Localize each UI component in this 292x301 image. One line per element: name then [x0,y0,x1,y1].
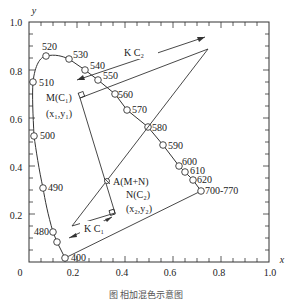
spectral-locus [33,55,201,258]
wl-700-770: 700-770 [205,185,238,196]
wl-510: 510 [39,77,54,88]
x-tick-0: 0 [18,267,23,278]
wl-590: 590 [168,140,183,151]
kc2-arrowhead-left [77,75,85,80]
x-tick-0.6: 0.6 [164,267,177,278]
wl-550: 550 [103,70,118,81]
wl-530: 530 [73,49,88,60]
x-axis-label: x [279,254,285,265]
y-axis-label: y [31,5,37,16]
kc1-arrowhead-right [105,217,112,222]
wl-490: 490 [48,182,63,193]
y-tick-0.8: 0.8 [10,66,23,77]
m-label: M(C₁) [46,92,72,104]
wl-560: 560 [118,89,133,100]
wl-500: 500 [40,130,55,141]
x-tick-0.8: 0.8 [213,267,226,278]
wl-480: 480 [34,226,49,237]
x-tick-1.0: 1.0 [264,267,277,278]
a-label: A(M+N) [113,176,149,188]
wl-520: 520 [42,41,57,52]
m-coords: (x₁,y₁) [46,108,72,120]
kc1-label: K C₁ [84,223,104,234]
x-tick-0.4: 0.4 [116,267,129,278]
y-tick-0.4: 0.4 [10,162,23,173]
n-coords: (x₂,y₂) [126,203,152,215]
x-tick-0.2: 0.2 [67,267,80,278]
kc1-arrowhead-left [69,233,77,238]
wl-400: 400 [71,252,86,263]
wl-580: 580 [152,122,167,133]
y-tick-0.6: 0.6 [10,114,23,125]
kc2-arrowhead-right [197,37,205,42]
wl-620: 620 [197,174,212,185]
wl-570: 570 [132,104,147,115]
figure-caption: 图 相加混色示意图 [0,288,292,301]
n-label: N(C₂) [126,189,150,201]
y-tick-1.0: 1.0 [10,17,23,28]
kc2-label: K C₂ [124,47,144,58]
y-tick-0.2: 0.2 [10,210,23,221]
